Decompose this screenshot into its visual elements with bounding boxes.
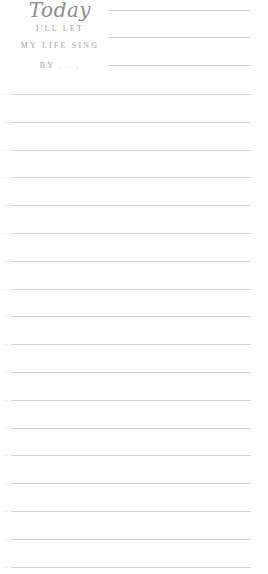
line-tick-mark — [3, 539, 8, 540]
header-writing-line — [108, 10, 251, 11]
line-tick-mark — [3, 400, 8, 401]
line-tick-mark — [3, 483, 8, 484]
subtitle-line-3: BY . . . — [0, 61, 120, 70]
header-writing-line — [108, 37, 251, 38]
header-writing-line — [108, 65, 251, 66]
line-tick-mark — [3, 261, 8, 262]
line-tick-mark — [3, 567, 8, 568]
ruled-line — [11, 483, 251, 484]
ruled-line — [11, 205, 251, 206]
line-tick-mark — [3, 511, 8, 512]
ruled-line — [11, 539, 251, 540]
ruled-line — [11, 344, 251, 345]
ruled-line — [11, 400, 251, 401]
ruled-line — [11, 428, 251, 429]
ruled-line — [11, 289, 251, 290]
line-tick-mark — [3, 94, 8, 95]
ruled-line — [11, 261, 251, 262]
ruled-line — [11, 316, 251, 317]
line-tick-mark — [3, 289, 8, 290]
line-tick-mark — [3, 122, 8, 123]
title-today: Today — [0, 0, 120, 22]
line-tick-mark — [3, 344, 8, 345]
ruled-line — [11, 233, 251, 234]
ruled-line — [11, 372, 251, 373]
subtitle-line-1: I'LL LET — [0, 24, 120, 33]
ruled-line — [11, 567, 251, 568]
subtitle-line-2: MY LIFE SING — [0, 41, 120, 50]
ruled-line — [11, 455, 251, 456]
ruled-line — [11, 150, 251, 151]
line-tick-mark — [3, 150, 8, 151]
line-tick-mark — [3, 455, 8, 456]
line-tick-mark — [3, 372, 8, 373]
line-tick-mark — [3, 205, 8, 206]
ruled-line — [11, 511, 251, 512]
ruled-line — [11, 122, 251, 123]
ruled-line — [11, 94, 251, 95]
line-tick-mark — [3, 316, 8, 317]
line-tick-mark — [3, 177, 8, 178]
line-tick-mark — [3, 428, 8, 429]
line-tick-mark — [3, 233, 8, 234]
ruled-line — [11, 177, 251, 178]
